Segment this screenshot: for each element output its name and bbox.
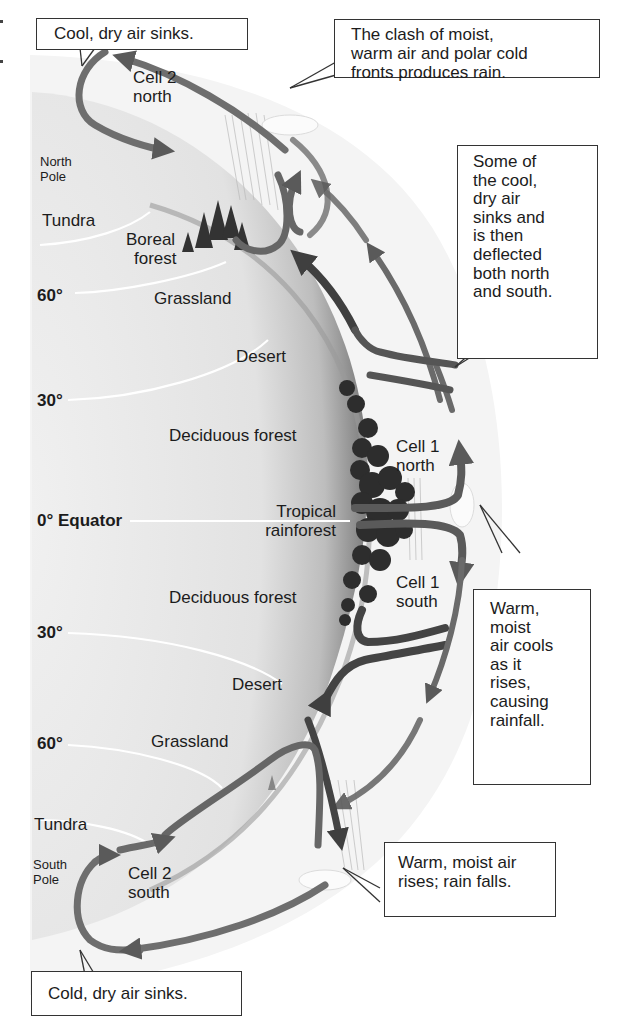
biome-tundra-south: Tundra <box>34 815 87 834</box>
biome-boreal-forest: Boreal forest <box>126 230 177 268</box>
page-edge-marks <box>0 0 6 400</box>
biome-grassland-south: Grassland <box>151 732 228 751</box>
cell-1-south-label: Cell 1 south <box>396 573 439 611</box>
biome-desert-south: Desert <box>232 675 282 694</box>
callout-warm-air-rises: Warm, moist air rises; rain falls. <box>384 842 556 917</box>
callout-clash-fronts: The clash of moist, warm air and polar c… <box>334 19 600 78</box>
south-pole-label: South Pole <box>33 857 67 887</box>
latitude-equator: 0° Equator <box>37 511 122 530</box>
callout-warm-air-cools: Warm, moist air cools as it rises, causi… <box>473 589 591 785</box>
biome-deciduous-north: Deciduous forest <box>169 426 297 445</box>
callout-cool-dry-air-sinks: Cool, dry air sinks. <box>36 18 248 50</box>
biome-grassland-north: Grassland <box>154 289 231 308</box>
biome-tropical-rainforest: Tropical rainforest <box>248 502 336 540</box>
latitude-south-60: 60° <box>37 734 63 753</box>
cloud-north <box>262 115 318 135</box>
cell-2-north-label: Cell 2 north <box>133 68 176 106</box>
biome-desert-north: Desert <box>236 347 286 366</box>
biome-deciduous-south: Deciduous forest <box>169 588 297 607</box>
callout-cold-dry-air-sinks: Cold, dry air sinks. <box>31 971 242 1016</box>
north-pole-label: North Pole <box>40 154 72 184</box>
latitude-north-60: 60° <box>37 286 63 305</box>
callout-air-deflected: Some of the cool, dry air sinks and is t… <box>457 145 598 359</box>
biome-tundra-north: Tundra <box>42 211 95 230</box>
latitude-south-30: 30° <box>37 623 63 642</box>
cell-1-north-label: Cell 1 north <box>396 437 439 475</box>
cell-2-south-label: Cell 2 south <box>128 864 171 902</box>
latitude-north-30: 30° <box>37 391 63 410</box>
